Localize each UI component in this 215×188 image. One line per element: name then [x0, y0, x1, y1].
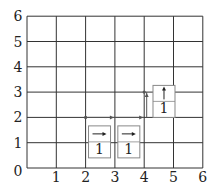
card-value: 1 — [160, 100, 169, 116]
card-value: 1 — [95, 141, 104, 157]
arrow-head-icon — [139, 115, 143, 119]
x-tick-label: 3 — [110, 169, 119, 185]
x-tick-label: 2 — [81, 169, 90, 185]
move-card: 1 — [89, 126, 111, 158]
y-tick-label: 2 — [14, 109, 23, 125]
card-value: 1 — [124, 141, 133, 157]
y-tick-label: 6 — [14, 8, 23, 24]
origin-label: 0 — [14, 163, 23, 179]
end-point — [143, 91, 146, 94]
x-tick-label: 4 — [140, 169, 149, 185]
arrow-head-icon — [110, 115, 114, 119]
arrow-head-icon — [145, 93, 149, 97]
y-tick-label: 1 — [14, 135, 23, 151]
x-tick-label: 6 — [198, 169, 207, 185]
x-tick-label: 1 — [52, 169, 61, 185]
y-tick-label: 5 — [14, 34, 23, 50]
x-tick-label: 5 — [169, 169, 178, 185]
move-card: 1 — [118, 126, 140, 158]
grid-diagram: 0123456123456111 — [0, 0, 215, 188]
y-tick-label: 3 — [14, 84, 23, 100]
y-tick-label: 4 — [14, 59, 23, 75]
move-card: 1 — [153, 85, 175, 117]
